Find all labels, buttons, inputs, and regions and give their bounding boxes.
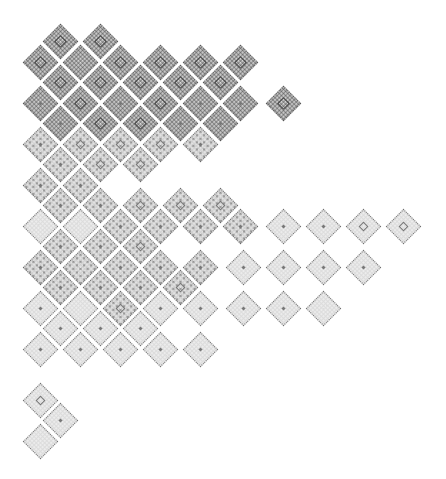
dot-motif-icon: [118, 101, 122, 105]
dot-motif-icon: [198, 306, 202, 310]
diamond-tile: [265, 208, 300, 243]
square-motif-icon: [95, 159, 105, 169]
dot-motif-icon: [198, 347, 202, 351]
square-motif-icon: [134, 117, 147, 130]
square-motif-icon: [175, 282, 185, 292]
dot-motif-icon: [198, 265, 202, 269]
diamond-pattern-canvas: [0, 0, 446, 479]
dot-motif-icon: [118, 347, 122, 351]
dot-motif-icon: [98, 326, 102, 330]
square-motif-icon: [75, 139, 85, 149]
dot-motif-icon: [158, 265, 162, 269]
dot-motif-icon: [58, 326, 62, 330]
diamond-tile: [305, 208, 340, 243]
diamond-tile: [345, 249, 380, 284]
dot-motif-icon: [198, 142, 202, 146]
dot-motif-icon: [158, 306, 162, 310]
square-motif-icon: [134, 76, 147, 89]
diamond-tile: [182, 331, 217, 366]
dot-motif-icon: [78, 347, 82, 351]
square-motif-icon: [234, 56, 247, 69]
square-motif-icon: [35, 395, 45, 405]
diamond-tile: [265, 290, 300, 325]
diamond-tile: [265, 85, 300, 120]
dot-motif-icon: [58, 121, 62, 125]
dot-motif-icon: [138, 285, 142, 289]
dot-motif-icon: [98, 244, 102, 248]
dot-motif-icon: [118, 265, 122, 269]
square-motif-icon: [74, 97, 87, 110]
dot-motif-icon: [238, 224, 242, 228]
square-motif-icon: [175, 200, 185, 210]
dot-motif-icon: [38, 306, 42, 310]
square-motif-icon: [94, 117, 107, 130]
square-motif-icon: [54, 76, 67, 89]
dot-motif-icon: [38, 183, 42, 187]
square-motif-icon: [114, 56, 127, 69]
dot-motif-icon: [281, 265, 285, 269]
dot-motif-icon: [238, 101, 242, 105]
square-motif-icon: [277, 97, 290, 110]
square-motif-icon: [135, 159, 145, 169]
dot-motif-icon: [218, 121, 222, 125]
square-motif-icon: [115, 303, 125, 313]
dot-motif-icon: [281, 224, 285, 228]
square-motif-icon: [94, 76, 107, 89]
dot-motif-icon: [158, 347, 162, 351]
square-motif-icon: [115, 139, 125, 149]
dot-motif-icon: [321, 265, 325, 269]
square-motif-icon: [54, 35, 67, 48]
dot-motif-icon: [58, 162, 62, 166]
diamond-tile: [225, 290, 260, 325]
square-motif-icon: [174, 76, 187, 89]
dot-motif-icon: [78, 183, 82, 187]
dot-motif-icon: [38, 347, 42, 351]
dot-motif-icon: [98, 285, 102, 289]
dot-motif-icon: [361, 265, 365, 269]
dot-motif-icon: [38, 142, 42, 146]
dot-motif-icon: [281, 306, 285, 310]
dot-motif-icon: [198, 224, 202, 228]
square-motif-icon: [135, 241, 145, 251]
diamond-tile: [225, 249, 260, 284]
dot-motif-icon: [58, 244, 62, 248]
diamond-tile: [305, 249, 340, 284]
diamond-tile: [385, 208, 420, 243]
square-motif-icon: [34, 56, 47, 69]
square-motif-icon: [155, 139, 165, 149]
square-motif-icon: [215, 200, 225, 210]
dot-motif-icon: [58, 203, 62, 207]
dot-motif-icon: [118, 224, 122, 228]
dot-motif-icon: [321, 224, 325, 228]
dot-motif-icon: [241, 265, 245, 269]
dot-motif-icon: [58, 418, 62, 422]
dot-motif-icon: [158, 224, 162, 228]
square-motif-icon: [135, 200, 145, 210]
square-motif-icon: [358, 221, 368, 231]
diamond-tile: [345, 208, 380, 243]
diamond-tile: [305, 290, 340, 325]
square-motif-icon: [194, 56, 207, 69]
diamond-tile: [265, 249, 300, 284]
dot-motif-icon: [138, 326, 142, 330]
square-motif-icon: [94, 35, 107, 48]
square-motif-icon: [214, 76, 227, 89]
dot-motif-icon: [241, 306, 245, 310]
square-motif-icon: [154, 56, 167, 69]
dot-motif-icon: [58, 285, 62, 289]
dot-motif-icon: [38, 101, 42, 105]
square-motif-icon: [154, 97, 167, 110]
dot-motif-icon: [38, 265, 42, 269]
dot-motif-icon: [98, 203, 102, 207]
square-motif-icon: [398, 221, 408, 231]
dot-motif-icon: [198, 101, 202, 105]
dot-motif-icon: [178, 121, 182, 125]
